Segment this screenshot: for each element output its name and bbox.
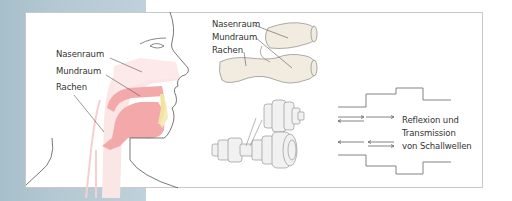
caption-line-2: Transmission — [402, 129, 456, 138]
cylinder-tube-model — [212, 100, 304, 168]
label-rachen-model: Rachen — [212, 46, 243, 55]
diagram-artwork — [0, 0, 512, 201]
label-mundraum-model: Mundraum — [212, 33, 257, 42]
label-nasenraum-model: Nasenraum — [212, 20, 260, 29]
caption-line-1: Reflexion und — [402, 116, 459, 125]
caption-line-3: von Schallwellen — [402, 142, 472, 151]
head-cross-section — [26, 12, 188, 198]
label-nasenraum-head: Nasenraum — [56, 50, 104, 59]
label-mundraum-head: Mundraum — [56, 67, 101, 76]
label-rachen-head: Rachen — [56, 83, 87, 92]
